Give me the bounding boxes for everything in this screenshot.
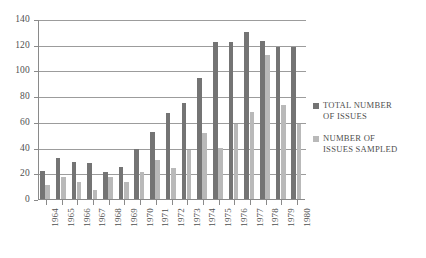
bar-total [182, 103, 187, 199]
bar-total [244, 32, 249, 199]
y-tick-label: 120 [0, 40, 30, 50]
x-tick-label: 1971 [160, 208, 170, 227]
plot-area [38, 20, 305, 200]
bar-total [276, 47, 281, 199]
bar-group [290, 19, 306, 199]
legend-item-sampled[interactable]: NUMBER OF ISSUES SAMPLED [313, 133, 423, 154]
y-tick-label: 140 [0, 14, 30, 24]
x-tick-label: 1980 [302, 208, 312, 227]
bar-group [86, 19, 102, 199]
bar-group [165, 19, 181, 199]
x-tick-mark [172, 200, 173, 205]
legend-label-sampled-line1: NUMBER OF [323, 133, 375, 143]
bar-total [134, 149, 139, 199]
legend-label-total-line2: OF ISSUES [323, 111, 392, 122]
legend-label-total-line1: TOTAL NUMBER [323, 100, 392, 110]
bar-total [119, 167, 124, 199]
x-tick-label: 1975 [223, 208, 233, 227]
x-tick-mark [250, 200, 251, 205]
chart-legend: TOTAL NUMBER OF ISSUES NUMBER OF ISSUES … [313, 100, 423, 166]
x-tick-mark [187, 200, 188, 205]
bar-sampled [187, 150, 192, 199]
bar-total [213, 42, 218, 199]
x-tick-label: 1966 [82, 208, 92, 227]
x-tick-mark [281, 200, 282, 205]
bar-group [243, 19, 259, 199]
bar-sampled [124, 182, 129, 199]
bar-sampled [45, 185, 50, 199]
legend-item-total[interactable]: TOTAL NUMBER OF ISSUES [313, 100, 423, 121]
x-tick-label: 1973 [192, 208, 202, 227]
bar-group [227, 19, 243, 199]
x-tick-label: 1964 [50, 208, 60, 227]
x-tick-label: 1976 [239, 208, 249, 227]
x-tick-label: 1974 [207, 208, 217, 227]
x-tick-label: 1970 [145, 208, 155, 227]
bar-sampled [61, 177, 66, 199]
bar-group [102, 19, 118, 199]
bar-sampled [171, 168, 176, 199]
bar-sampled [93, 190, 98, 199]
bar-total [197, 78, 202, 199]
x-tick-label: 1967 [97, 208, 107, 227]
x-tick-mark [93, 200, 94, 205]
legend-label-sampled: NUMBER OF ISSUES SAMPLED [323, 133, 397, 154]
x-tick-mark [234, 200, 235, 205]
legend-swatch-sampled-icon [313, 136, 319, 142]
bar-total [40, 171, 45, 199]
x-tick-label: 1979 [286, 208, 296, 227]
bar-sampled [250, 112, 255, 199]
legend-swatch-total-icon [313, 103, 319, 109]
bar-sampled [297, 124, 302, 199]
y-tick-mark [34, 200, 38, 201]
x-tick-mark [124, 200, 125, 205]
x-tick-mark [156, 200, 157, 205]
y-tick-label: 60 [0, 117, 30, 127]
y-tick-label: 20 [0, 168, 30, 178]
x-tick-mark [266, 200, 267, 205]
y-tick-label: 0 [0, 194, 30, 204]
y-tick-label: 80 [0, 91, 30, 101]
x-tick-mark [140, 200, 141, 205]
x-tick-label: 1968 [113, 208, 123, 227]
y-tick-label: 100 [0, 65, 30, 75]
bar-group [196, 19, 212, 199]
y-tick-label: 40 [0, 143, 30, 153]
x-tick-mark [46, 200, 47, 205]
bar-group [212, 19, 228, 199]
bar-group [275, 19, 291, 199]
bar-group [55, 19, 71, 199]
legend-label-sampled-line2: ISSUES SAMPLED [323, 144, 397, 155]
x-tick-label: 1978 [270, 208, 280, 227]
x-tick-label: 1965 [66, 208, 76, 227]
bar-total [103, 172, 108, 199]
bar-group [70, 19, 86, 199]
bar-chart: 020406080100120140 196419651966196719681… [0, 0, 426, 258]
bar-group [118, 19, 134, 199]
x-tick-mark [203, 200, 204, 205]
bar-group [180, 19, 196, 199]
bar-sampled [265, 55, 270, 199]
bar-total [72, 162, 77, 199]
x-tick-mark [109, 200, 110, 205]
bar-sampled [140, 172, 145, 199]
bar-sampled [77, 182, 82, 199]
x-tick-mark [62, 200, 63, 205]
bar-group [133, 19, 149, 199]
x-tick-label: 1969 [129, 208, 139, 227]
bar-sampled [155, 160, 160, 199]
bar-sampled [202, 133, 207, 199]
bar-sampled [281, 105, 286, 199]
x-tick-mark [77, 200, 78, 205]
x-tick-mark [297, 200, 298, 205]
bar-total [229, 42, 234, 199]
bar-total [150, 132, 155, 199]
bar-total [56, 158, 61, 199]
x-tick-label: 1972 [176, 208, 186, 227]
bar-sampled [218, 148, 223, 199]
bar-group [39, 19, 55, 199]
bar-total [87, 163, 92, 199]
bar-sampled [108, 177, 113, 199]
legend-label-total: TOTAL NUMBER OF ISSUES [323, 100, 392, 121]
bar-total [166, 113, 171, 199]
